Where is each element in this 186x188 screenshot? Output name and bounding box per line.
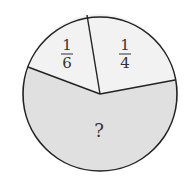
pie-diagram: 1 6 1 4 ? xyxy=(0,0,186,188)
label-one-sixth: 1 6 xyxy=(61,36,73,72)
fraction-denominator: 6 xyxy=(62,54,72,72)
fraction-numerator: 1 xyxy=(62,36,72,54)
fraction-denominator: 4 xyxy=(120,54,130,72)
label-unknown: ? xyxy=(94,120,104,141)
label-one-quarter: 1 4 xyxy=(119,36,131,72)
fraction-numerator: 1 xyxy=(120,36,130,54)
